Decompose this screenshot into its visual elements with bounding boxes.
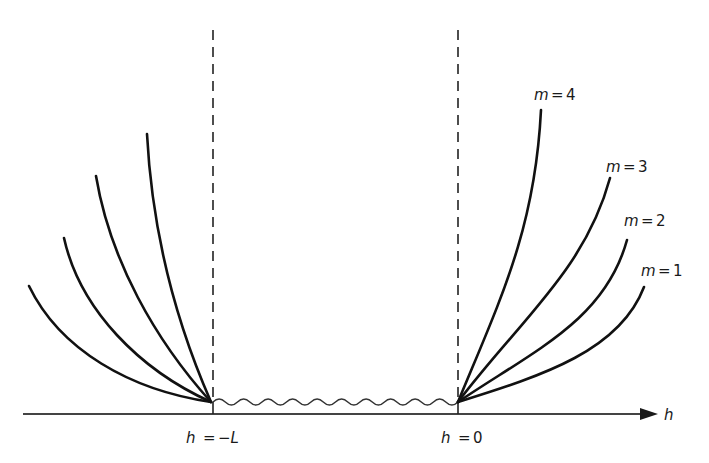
svg-text:1: 1 bbox=[673, 262, 683, 280]
curve-label-m2: m = 2 bbox=[624, 212, 666, 230]
right-curve-m4 bbox=[458, 110, 541, 402]
right-curve-m2 bbox=[458, 240, 627, 402]
svg-text:=: = bbox=[641, 212, 654, 230]
svg-text:h: h bbox=[186, 429, 196, 447]
axis-label: h bbox=[664, 406, 674, 424]
svg-text:0: 0 bbox=[473, 429, 483, 447]
left-curve-4 bbox=[29, 286, 211, 402]
svg-text:2: 2 bbox=[656, 212, 666, 230]
marker-label-zero: h = 0 bbox=[441, 429, 483, 447]
svg-text:h: h bbox=[441, 429, 451, 447]
svg-text:=: = bbox=[551, 86, 564, 104]
svg-text:m: m bbox=[624, 212, 639, 230]
svg-text:=: = bbox=[623, 158, 636, 176]
marker-label-minus-L: h = −L bbox=[186, 429, 239, 447]
svg-text:m: m bbox=[534, 86, 549, 104]
svg-text:m: m bbox=[606, 158, 621, 176]
svg-text:4: 4 bbox=[566, 86, 576, 104]
svg-text:m: m bbox=[641, 262, 656, 280]
axis-arrowhead-icon bbox=[640, 408, 658, 420]
curve-label-m3: m = 3 bbox=[606, 158, 648, 176]
wavy-interface bbox=[213, 399, 458, 405]
svg-text:=: = bbox=[658, 262, 671, 280]
right-curve-m3 bbox=[458, 178, 610, 402]
svg-text:3: 3 bbox=[638, 158, 648, 176]
svg-text:=: = bbox=[458, 429, 471, 447]
curve-label-m4: m = 4 bbox=[534, 86, 576, 104]
diagram-canvas: h m = 4 m = 3 m = 2 m = 1 h bbox=[0, 0, 709, 463]
curve-label-m1: m = 1 bbox=[641, 262, 683, 280]
svg-text:=: = bbox=[203, 429, 216, 447]
svg-text:−L: −L bbox=[218, 429, 239, 447]
